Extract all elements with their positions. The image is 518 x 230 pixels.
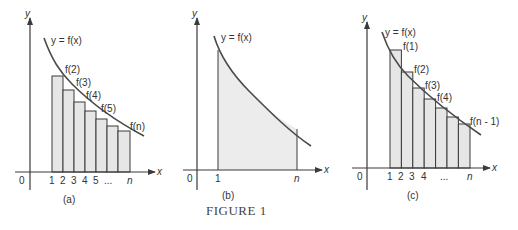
x-tick: 1 bbox=[215, 173, 221, 184]
bar bbox=[436, 108, 447, 168]
x-tick: 4 bbox=[82, 175, 88, 186]
x-axis-label: x bbox=[323, 164, 330, 175]
x-tick: ... bbox=[440, 171, 448, 182]
bar-label: f(5) bbox=[101, 103, 116, 114]
x-tick: ... bbox=[104, 175, 112, 186]
bar bbox=[424, 99, 435, 168]
x-tick: 4 bbox=[421, 171, 427, 182]
y-axis-label: y bbox=[24, 8, 31, 19]
bar bbox=[107, 126, 118, 172]
bar bbox=[458, 124, 470, 168]
bar-label: f(n) bbox=[130, 121, 145, 132]
bar-label: f(2) bbox=[414, 64, 429, 75]
panel-c: y x 0 y = f(x) 1 2 3 4 ... n f(1) f(2) f… bbox=[352, 12, 499, 201]
x-tick: 1 bbox=[49, 175, 55, 186]
panel-label: (c) bbox=[407, 190, 419, 201]
x-tick: 2 bbox=[398, 171, 404, 182]
curve-label: y = f(x) bbox=[221, 32, 252, 43]
curve-label: y = f(x) bbox=[51, 35, 82, 46]
origin-label: 0 bbox=[19, 175, 25, 186]
y-axis-label: y bbox=[361, 12, 368, 23]
x-tick: 5 bbox=[93, 175, 99, 186]
x-tick: n bbox=[127, 175, 133, 186]
panel-label: (b) bbox=[222, 190, 234, 201]
bar bbox=[52, 76, 63, 172]
bar-label: f(4) bbox=[86, 90, 101, 101]
bar-label: f(n - 1) bbox=[470, 116, 499, 127]
x-tick: 2 bbox=[60, 175, 66, 186]
bar bbox=[118, 131, 130, 172]
bar bbox=[74, 102, 85, 172]
figure-caption: FIGURE 1 bbox=[206, 203, 267, 218]
panel-b: y x 0 y = f(x) 1 n (b) FIGURE 1 bbox=[183, 8, 330, 218]
bar-label: f(2) bbox=[65, 64, 80, 75]
origin-label: 0 bbox=[187, 173, 193, 184]
x-axis-label: x bbox=[491, 162, 498, 173]
bar bbox=[96, 119, 107, 172]
bar-label: f(1) bbox=[403, 41, 418, 52]
x-axis-label: x bbox=[156, 166, 163, 177]
x-tick: 3 bbox=[409, 171, 415, 182]
bar bbox=[85, 111, 96, 172]
bar bbox=[401, 72, 412, 168]
bar bbox=[413, 88, 424, 168]
x-tick: n bbox=[294, 173, 300, 184]
x-tick: 3 bbox=[71, 175, 77, 186]
panel-label: (a) bbox=[63, 194, 75, 205]
panel-a: y x 0 y = f(x) 1 2 3 4 5 ... n f(2) f(3)… bbox=[15, 8, 163, 205]
x-tick: n bbox=[467, 171, 473, 182]
bar bbox=[447, 117, 458, 168]
curve-label: y = f(x) bbox=[385, 27, 416, 38]
y-axis-label: y bbox=[191, 8, 198, 19]
x-tick: 1 bbox=[387, 171, 393, 182]
bar-label: f(4) bbox=[437, 92, 452, 103]
bars-circumscribed bbox=[390, 50, 470, 168]
figure-1: y x 0 y = f(x) 1 2 3 4 5 ... n f(2) f(3)… bbox=[0, 0, 518, 230]
origin-label: 0 bbox=[357, 171, 363, 182]
bar-label: f(3) bbox=[76, 77, 91, 88]
bar-label: f(3) bbox=[425, 80, 440, 91]
bar bbox=[63, 90, 74, 172]
